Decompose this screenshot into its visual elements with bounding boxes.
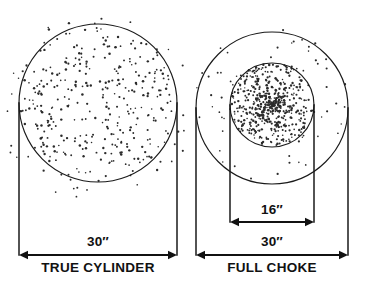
pellet-dot — [283, 141, 284, 142]
pellet-dot — [70, 179, 72, 181]
pellet-dot — [77, 102, 79, 104]
pellet-dot — [57, 98, 59, 100]
pellet-dot — [237, 100, 239, 102]
pellet-dot — [117, 79, 120, 82]
pellet-dot — [237, 119, 239, 121]
pellet-dot — [301, 39, 303, 41]
pellet-dot — [165, 117, 167, 119]
pellet-dot — [63, 139, 65, 141]
pellet-dot — [246, 72, 248, 74]
pellet-dot — [104, 57, 106, 59]
pellet-dot — [285, 90, 287, 92]
pellet-dot — [254, 72, 256, 74]
pellet-dot — [113, 160, 115, 162]
pellet-dot — [246, 90, 248, 92]
pellet-dot — [108, 80, 110, 82]
pellet-dot — [297, 89, 299, 91]
pellet-dot — [242, 123, 244, 125]
pellet-dot — [133, 158, 135, 160]
pellet-dot — [60, 135, 63, 138]
pellet-dot — [238, 83, 240, 85]
pellet-dot — [234, 111, 236, 113]
pellet-dot — [293, 97, 295, 99]
pellet-dot — [251, 113, 253, 115]
pellet-dot — [267, 118, 269, 120]
pellet-dot — [115, 46, 117, 48]
pellet-dot — [291, 113, 292, 114]
pellet-dot — [260, 106, 262, 108]
pellet-dot — [108, 52, 111, 55]
pellet-dot — [167, 75, 169, 77]
pellet-dot — [279, 95, 281, 97]
pellet-dot — [48, 113, 50, 115]
pellet-dot — [265, 136, 267, 138]
pellet-dot — [154, 71, 156, 73]
pellet-dot — [131, 89, 133, 91]
pellet-dot — [272, 64, 274, 66]
pellet-dot — [142, 94, 144, 96]
pellet-dot — [157, 146, 159, 148]
pellet-dot — [295, 94, 297, 96]
pellet-dot — [256, 100, 258, 102]
pellet-dot — [34, 91, 36, 93]
pellet-dot — [50, 118, 52, 120]
pellet-dot — [234, 91, 236, 93]
pellet-dot — [277, 130, 279, 132]
pellet-dot — [276, 142, 279, 145]
full-choke-overall-dimension-right-arrowhead — [339, 251, 348, 259]
pellet-dot — [267, 115, 269, 117]
pellet-dot — [265, 79, 267, 81]
label-layer: 30″ TRUE CYLINDER 16″ 30″ FULL CHOKE — [41, 202, 317, 275]
pellet-dot — [296, 68, 298, 70]
pellet-dot — [260, 103, 262, 105]
pellet-dot — [284, 103, 286, 105]
pellet-dot — [104, 152, 106, 154]
pellet-dot — [117, 125, 119, 127]
pellet-dot — [287, 105, 289, 107]
pellet-dot — [302, 89, 304, 91]
pellet-dot — [76, 168, 78, 170]
pellet-dot — [141, 107, 143, 109]
pellet-dot — [287, 72, 289, 74]
pellet-dot — [317, 135, 319, 137]
pellet-dot — [43, 49, 45, 51]
pellet-dot — [85, 66, 87, 68]
pellet-dot — [49, 44, 51, 46]
full-choke-core-dimension-right-arrowhead — [305, 218, 314, 226]
pellet-dot — [269, 103, 271, 105]
pellet-dot — [266, 84, 268, 86]
pellet-dot — [47, 125, 49, 127]
pellet-dot — [230, 81, 232, 83]
pellet-dot — [138, 74, 140, 76]
pellet-dot — [270, 98, 271, 99]
pellet-dot — [149, 138, 151, 140]
pellet-dot — [85, 63, 87, 65]
pellet-dot — [288, 139, 290, 141]
pellet-dot — [66, 137, 68, 139]
pellet-dot — [237, 89, 239, 91]
pellet-dot — [303, 106, 305, 108]
pellet-dot — [160, 107, 162, 109]
pellet-dot — [76, 187, 78, 189]
pellet-dot — [277, 135, 279, 137]
pellet-dot — [335, 102, 337, 104]
pellet-dot — [76, 196, 78, 198]
pellet-dot — [39, 137, 42, 140]
pellet-dot — [29, 99, 31, 101]
pellet-dot — [227, 52, 229, 54]
pellet-dot — [314, 42, 316, 44]
pellet-dot — [111, 160, 113, 162]
figure-canvas: 30″ TRUE CYLINDER 16″ 30″ FULL CHOKE — [0, 0, 376, 283]
pellet-dot — [79, 135, 81, 137]
pellet-dot — [79, 63, 81, 65]
pellet-dot — [81, 119, 83, 121]
pellet-dot — [268, 96, 270, 98]
pellet-dot — [117, 122, 119, 124]
pellet-dot — [40, 124, 42, 126]
pellet-dot — [304, 122, 306, 124]
pellet-dot — [141, 146, 143, 148]
pellet-dot — [288, 129, 290, 131]
pellet-dot — [252, 71, 254, 73]
pellet-dot — [241, 78, 242, 79]
pellet-dot — [208, 76, 210, 78]
